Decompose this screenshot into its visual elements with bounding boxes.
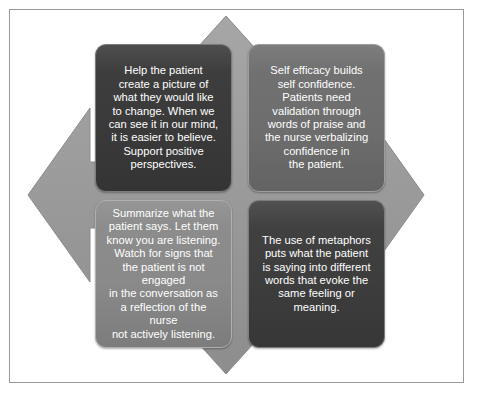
- quadrant-grid: Help the patient create a picture of wha…: [0, 0, 477, 393]
- diagram-canvas: Help the patient create a picture of wha…: [0, 0, 477, 393]
- quadrant-top-left[interactable]: Help the patient create a picture of wha…: [95, 44, 232, 192]
- quadrant-bottom-right[interactable]: The use of metaphors puts what the patie…: [248, 200, 385, 348]
- quadrant-top-right[interactable]: Self efficacy builds self confidence. Pa…: [248, 44, 385, 192]
- quadrant-bottom-left-text: Summarize what the patient says. Let the…: [106, 207, 221, 341]
- quadrant-top-left-text: Help the patient create a picture of wha…: [106, 64, 221, 171]
- quadrant-bottom-right-text: The use of metaphors puts what the patie…: [259, 234, 374, 314]
- quadrant-bottom-left[interactable]: Summarize what the patient says. Let the…: [95, 200, 232, 348]
- quadrant-top-right-text: Self efficacy builds self confidence. Pa…: [259, 64, 374, 171]
